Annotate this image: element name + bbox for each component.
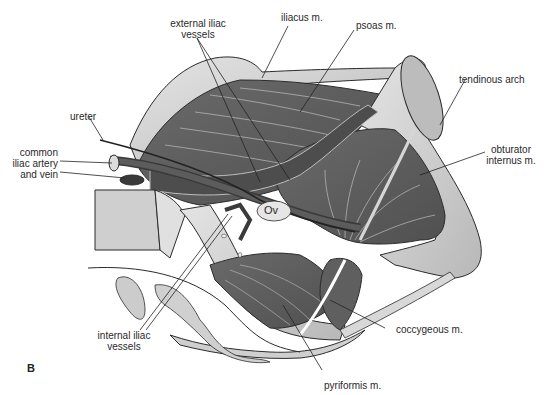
label-line: internal iliac	[84, 330, 164, 341]
label-iliacus: iliacus m.	[281, 12, 323, 23]
common-iliac-vein	[120, 175, 144, 185]
sacrum-block	[95, 190, 160, 250]
label-pyriformis: pyriformis m.	[324, 380, 381, 391]
label-line: obturator	[478, 144, 544, 155]
anatomy-illustration	[0, 0, 544, 395]
label-internal-iliac-vessels: internal iliac vessels	[84, 330, 164, 352]
label-tendinous-arch: tendinous arch	[459, 74, 525, 85]
foramen-dot	[222, 234, 227, 238]
label-psoas: psoas m.	[356, 20, 397, 31]
panel-letter: B	[27, 362, 35, 374]
label-external-iliac-vessels: external iliac vessels	[138, 18, 258, 40]
internal-iliac-branch	[225, 205, 250, 240]
label-obturator-internus: obturator internus m.	[478, 144, 544, 166]
label-ureter: ureter	[70, 111, 96, 122]
label-common-iliac-artery-vein: common iliac artery and vein	[0, 147, 58, 180]
foramen-dot	[238, 253, 242, 258]
label-coccygeous: coccygeous m.	[396, 324, 463, 335]
label-line: internus m.	[478, 155, 544, 166]
label-line: external iliac	[138, 18, 258, 29]
label-line: common	[0, 147, 58, 158]
label-line: vessels	[84, 341, 164, 352]
label-line: vessels	[138, 29, 258, 40]
gluteal-oval	[116, 277, 145, 319]
label-line: iliac artery	[0, 158, 58, 169]
label-ovary: Ov	[264, 205, 278, 216]
pelvic-wall-diagram: external iliac vessels iliacus m. psoas …	[0, 0, 544, 395]
label-line: and vein	[0, 169, 58, 180]
